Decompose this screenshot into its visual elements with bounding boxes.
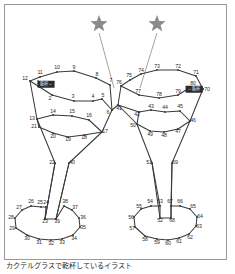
dot-label-32: 32 [48,241,54,246]
dot-11 [39,76,41,78]
dot-29 [15,227,17,229]
dot-label-74: 74 [138,68,144,73]
dot-label-17: 17 [102,129,108,134]
glass-outline-lines [15,70,203,240]
right-glass-badge: ←乾杯 [186,86,203,93]
dot-50 [136,123,138,125]
dot-label-40: 40 [69,160,75,165]
dot-label-21: 21 [31,124,37,129]
connect-the-dots-drawing [0,0,235,274]
dot-44 [164,111,166,113]
dot-label-73: 73 [154,64,160,69]
dot-label-68: 68 [169,218,175,223]
dot-12 [29,80,31,82]
dot-54 [150,205,152,207]
dot-label-3: 3 [72,94,75,99]
dot-label-22: 22 [49,160,55,165]
dot-label-58: 58 [142,237,148,242]
dot-label-64: 64 [197,214,203,219]
dot-label-15: 15 [69,109,75,114]
dot-75 [129,79,131,81]
dot-label-12: 12 [22,76,28,81]
dot-45 [179,110,181,112]
dot-16 [88,119,90,121]
dot-53 [159,205,161,207]
dot-label-67: 67 [167,199,173,204]
star-right-icon [148,15,165,31]
dot-label-48: 48 [161,133,167,138]
dot-label-50: 50 [130,123,136,128]
dot-13 [36,118,38,120]
dot-label-72: 72 [175,64,181,69]
dot-4 [92,100,94,102]
dot-label-45: 45 [177,104,183,109]
dot-label-49: 49 [147,132,153,137]
dot-label-13: 13 [29,116,35,121]
dot-label-71: 71 [193,70,199,75]
dot-label-38: 38 [62,199,68,204]
dot-label-43: 43 [148,104,154,109]
figure-caption: カクテルグラスで乾杯しているイラスト [6,262,232,270]
dot-label-27: 27 [16,205,22,210]
dot-label-34: 34 [71,236,77,241]
dot-label-41: 41 [116,106,122,111]
dot-label-51: 51 [146,160,152,165]
dot-label-31: 31 [36,240,42,245]
dot-label-24: 24 [43,200,49,205]
dot-label-2: 2 [49,96,52,101]
illustration-root: 1234567891011121314151617181920212223242… [0,0,235,274]
dot-38 [63,205,65,207]
dot-label-57: 57 [129,226,135,231]
dot-label-30: 30 [24,236,30,241]
dot-7 [109,84,111,86]
star-leader-line [140,33,157,88]
dot-label-23: 23 [42,219,48,224]
dot-label-60: 60 [165,241,171,246]
dot-label-65: 65 [190,204,196,209]
dot-label-61: 61 [176,239,182,244]
dot-label-11: 11 [37,70,42,75]
dot-label-36: 36 [80,215,86,220]
dot-label-44: 44 [162,105,168,110]
dot-24 [45,206,47,208]
dot-label-29: 29 [9,226,15,231]
dot-label-20: 20 [50,134,56,139]
dot-label-9: 9 [73,65,76,70]
dot-3 [73,100,75,102]
dot-label-14: 14 [50,109,56,114]
dot-label-70: 70 [204,87,210,92]
dot-label-54: 54 [147,199,153,204]
dot-label-59: 59 [154,240,160,245]
dot-label-16: 16 [86,113,92,118]
dot-label-4: 4 [92,94,95,99]
dot-label-55: 55 [136,204,142,209]
dot-label-46: 46 [190,118,196,123]
dot-label-37: 37 [72,205,78,210]
dot-label-26: 26 [28,199,34,204]
dot-label-77: 77 [135,89,141,94]
dot-label-10: 10 [54,65,60,70]
dot-label-18: 18 [81,135,87,140]
dot-label-39: 39 [54,219,60,224]
dot-label-5: 5 [102,93,105,98]
dot-28 [14,217,16,219]
dot-label-25: 25 [37,200,43,205]
dot-21 [38,126,40,128]
dot-label-63: 63 [196,224,202,229]
dot-label-7: 7 [110,78,113,83]
dot-26 [30,205,32,207]
dot-10 [56,71,58,73]
dot-label-35: 35 [80,225,86,230]
dot-label-56: 56 [128,215,134,220]
dot-66 [179,205,181,207]
dot-label-28: 28 [8,215,14,220]
dot-label-53: 53 [157,199,163,204]
dot-label-78: 78 [156,92,162,97]
dot-label-62: 62 [187,235,193,240]
dot-label-76: 76 [116,80,122,85]
dot-label-47: 47 [175,129,181,134]
dot-label-75: 75 [126,73,132,78]
dot-label-52: 52 [157,218,163,223]
dot-label-66: 66 [177,199,183,204]
dot-label-19: 19 [65,137,71,142]
